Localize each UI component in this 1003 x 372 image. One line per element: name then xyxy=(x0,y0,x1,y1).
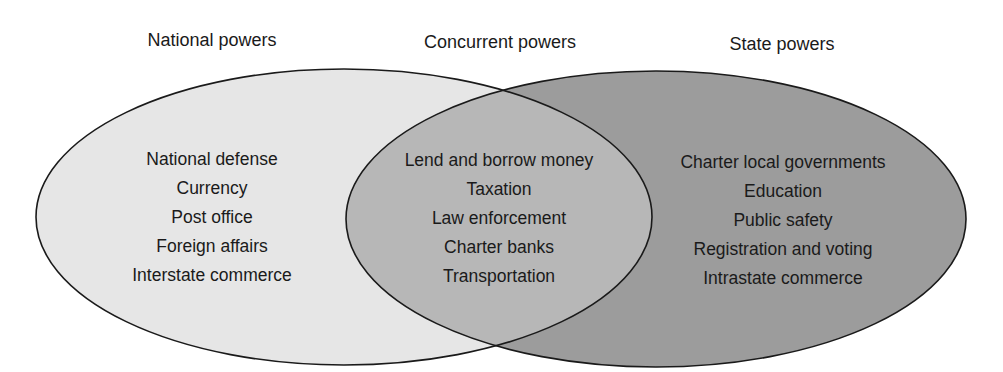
state-powers-list: Charter local governments Education Publ… xyxy=(633,148,933,293)
national-powers-title: National powers xyxy=(82,30,342,51)
list-item: Post office xyxy=(62,203,362,232)
list-item: Intrastate commerce xyxy=(633,264,933,293)
list-item: Charter local governments xyxy=(633,148,933,177)
list-item: Registration and voting xyxy=(633,235,933,264)
concurrent-powers-title: Concurrent powers xyxy=(370,32,630,53)
list-item: Transportation xyxy=(349,262,649,291)
list-item: Taxation xyxy=(349,175,649,204)
list-item: Law enforcement xyxy=(349,204,649,233)
concurrent-powers-list: Lend and borrow money Taxation Law enfor… xyxy=(349,146,649,291)
list-item: Interstate commerce xyxy=(62,261,362,290)
list-item: Charter banks xyxy=(349,233,649,262)
state-powers-title: State powers xyxy=(652,34,912,55)
list-item: Foreign affairs xyxy=(62,232,362,261)
national-powers-list: National defense Currency Post office Fo… xyxy=(62,145,362,290)
list-item: Lend and borrow money xyxy=(349,146,649,175)
list-item: National defense xyxy=(62,145,362,174)
list-item: Public safety xyxy=(633,206,933,235)
list-item: Education xyxy=(633,177,933,206)
list-item: Currency xyxy=(62,174,362,203)
